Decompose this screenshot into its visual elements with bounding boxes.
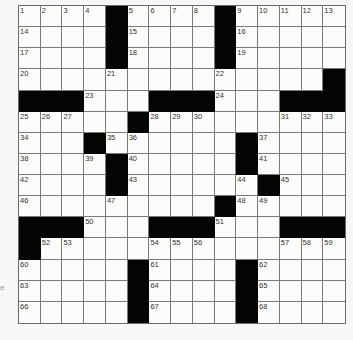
grid-cell[interactable]: [106, 260, 128, 281]
grid-cell[interactable]: [215, 133, 237, 154]
grid-cell[interactable]: [302, 27, 324, 48]
grid-cell[interactable]: [280, 133, 302, 154]
grid-cell[interactable]: [149, 48, 171, 69]
grid-cell[interactable]: 8: [193, 6, 215, 27]
grid-cell[interactable]: [62, 302, 84, 323]
grid-cell[interactable]: [62, 281, 84, 302]
grid-cell[interactable]: [171, 27, 193, 48]
grid-cell[interactable]: [171, 154, 193, 175]
grid-cell[interactable]: [128, 69, 150, 90]
grid-cell[interactable]: [41, 133, 63, 154]
grid-cell[interactable]: 65: [258, 281, 280, 302]
grid-cell[interactable]: [62, 196, 84, 217]
grid-cell[interactable]: 29: [171, 112, 193, 133]
grid-cell[interactable]: [236, 112, 258, 133]
grid-cell[interactable]: [258, 27, 280, 48]
grid-cell[interactable]: [193, 260, 215, 281]
grid-cell[interactable]: [41, 302, 63, 323]
grid-cell[interactable]: 46: [19, 196, 41, 217]
grid-cell[interactable]: [149, 175, 171, 196]
grid-cell[interactable]: [193, 196, 215, 217]
grid-cell[interactable]: [128, 196, 150, 217]
grid-cell[interactable]: [171, 48, 193, 69]
grid-cell[interactable]: [258, 69, 280, 90]
grid-cell[interactable]: [41, 281, 63, 302]
grid-cell[interactable]: 34: [19, 133, 41, 154]
grid-cell[interactable]: [106, 302, 128, 323]
grid-cell[interactable]: 36: [128, 133, 150, 154]
grid-cell[interactable]: [280, 196, 302, 217]
grid-cell[interactable]: [323, 281, 345, 302]
grid-cell[interactable]: [193, 69, 215, 90]
grid-cell[interactable]: 31: [280, 112, 302, 133]
grid-cell[interactable]: [149, 133, 171, 154]
grid-cell[interactable]: 41: [258, 154, 280, 175]
grid-cell[interactable]: [193, 302, 215, 323]
grid-cell[interactable]: [323, 196, 345, 217]
grid-cell[interactable]: [149, 154, 171, 175]
grid-cell[interactable]: 35: [106, 133, 128, 154]
grid-cell[interactable]: [41, 260, 63, 281]
grid-cell[interactable]: [258, 48, 280, 69]
grid-cell[interactable]: 24: [215, 91, 237, 112]
grid-cell[interactable]: [323, 48, 345, 69]
grid-cell[interactable]: [302, 69, 324, 90]
grid-cell[interactable]: 48: [236, 196, 258, 217]
grid-cell[interactable]: [323, 260, 345, 281]
grid-cell[interactable]: [193, 48, 215, 69]
grid-cell[interactable]: 18: [128, 48, 150, 69]
grid-cell[interactable]: [280, 27, 302, 48]
grid-cell[interactable]: 40: [128, 154, 150, 175]
grid-cell[interactable]: [258, 112, 280, 133]
grid-cell[interactable]: [323, 133, 345, 154]
grid-cell[interactable]: [215, 175, 237, 196]
grid-cell[interactable]: [171, 302, 193, 323]
grid-cell[interactable]: [236, 238, 258, 259]
grid-cell[interactable]: [149, 69, 171, 90]
grid-cell[interactable]: [128, 217, 150, 238]
grid-cell[interactable]: [215, 281, 237, 302]
grid-cell[interactable]: 49: [258, 196, 280, 217]
grid-cell[interactable]: [106, 281, 128, 302]
grid-cell[interactable]: [62, 260, 84, 281]
grid-cell[interactable]: 21: [106, 69, 128, 90]
grid-cell[interactable]: [302, 133, 324, 154]
grid-cell[interactable]: [258, 91, 280, 112]
grid-cell[interactable]: 3: [62, 6, 84, 27]
grid-cell[interactable]: 60: [19, 260, 41, 281]
grid-cell[interactable]: 25: [19, 112, 41, 133]
grid-cell[interactable]: [215, 154, 237, 175]
grid-cell[interactable]: [323, 154, 345, 175]
grid-cell[interactable]: 58: [302, 238, 324, 259]
grid-cell[interactable]: [84, 196, 106, 217]
grid-cell[interactable]: 50: [84, 217, 106, 238]
grid-cell[interactable]: [280, 69, 302, 90]
grid-cell[interactable]: [236, 91, 258, 112]
grid-cell[interactable]: [258, 238, 280, 259]
grid-cell[interactable]: [171, 260, 193, 281]
grid-cell[interactable]: 1: [19, 6, 41, 27]
grid-cell[interactable]: 53: [62, 238, 84, 259]
grid-cell[interactable]: [215, 238, 237, 259]
grid-cell[interactable]: [84, 281, 106, 302]
grid-cell[interactable]: [41, 154, 63, 175]
grid-cell[interactable]: 27: [62, 112, 84, 133]
grid-cell[interactable]: [193, 27, 215, 48]
grid-cell[interactable]: [106, 112, 128, 133]
grid-cell[interactable]: [171, 196, 193, 217]
grid-cell[interactable]: [41, 69, 63, 90]
grid-cell[interactable]: [323, 175, 345, 196]
grid-cell[interactable]: 6: [149, 6, 171, 27]
grid-cell[interactable]: [128, 91, 150, 112]
grid-cell[interactable]: 64: [149, 281, 171, 302]
grid-cell[interactable]: 28: [149, 112, 171, 133]
grid-cell[interactable]: [62, 48, 84, 69]
grid-cell[interactable]: [215, 302, 237, 323]
grid-cell[interactable]: 10: [258, 6, 280, 27]
grid-cell[interactable]: [41, 27, 63, 48]
grid-cell[interactable]: [215, 260, 237, 281]
grid-cell[interactable]: [41, 175, 63, 196]
grid-cell[interactable]: [62, 175, 84, 196]
grid-cell[interactable]: [62, 69, 84, 90]
grid-cell[interactable]: [106, 217, 128, 238]
